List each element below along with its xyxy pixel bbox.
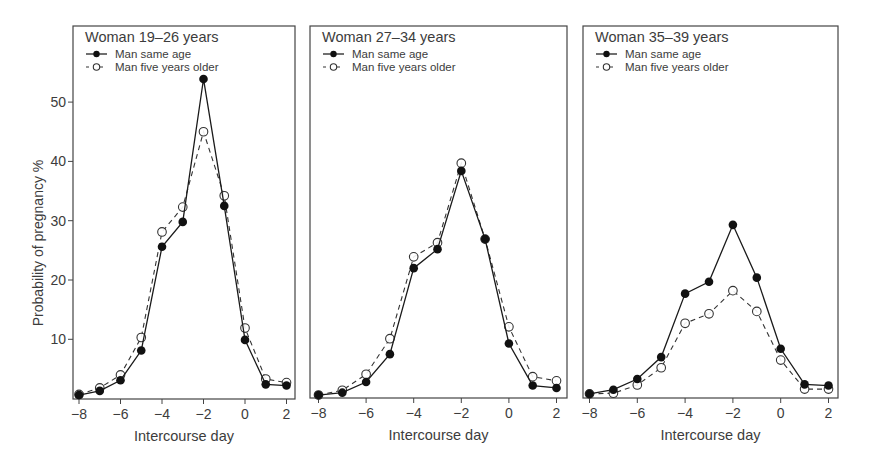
data-point <box>528 381 537 390</box>
x-tick-label: 0 <box>777 405 785 421</box>
x-tick-label: −4 <box>406 405 422 421</box>
data-point <box>729 221 738 230</box>
data-point <box>158 228 167 237</box>
y-axis: 1020304050 <box>50 94 73 347</box>
data-point <box>457 167 466 176</box>
x-tick-label: −6 <box>113 406 129 422</box>
open-circle-marker-icon <box>603 64 609 70</box>
panel-woman-27-34: Woman 27–34 yearsMan same ageMan five ye… <box>310 26 567 443</box>
x-tick-label: −8 <box>311 405 327 421</box>
data-point <box>681 319 690 328</box>
x-tick-label: 0 <box>241 406 249 422</box>
data-point <box>409 253 418 262</box>
panel-title: Woman 35–39 years <box>595 29 729 45</box>
filled-circle-marker-icon <box>603 51 609 57</box>
x-tick-label: −6 <box>358 405 374 421</box>
legend-label-same-age: Man same age <box>115 48 191 60</box>
data-point <box>314 391 323 400</box>
series-line <box>319 171 557 395</box>
data-point <box>362 370 371 379</box>
panel-title: Woman 19–26 years <box>85 29 219 45</box>
series-man-five-years-older <box>75 127 291 398</box>
x-tick-label: 2 <box>283 406 291 422</box>
x-axis-label: Intercourse day <box>389 427 490 443</box>
data-point <box>705 310 714 319</box>
y-tick-label: 50 <box>50 94 66 110</box>
x-tick-label: −2 <box>725 405 741 421</box>
x-axis-label: Intercourse day <box>134 428 235 444</box>
y-axis-label: Probability of pregnancy % <box>30 160 46 327</box>
data-point <box>705 277 714 286</box>
x-axis: −8−6−4−202 <box>71 399 291 422</box>
open-circle-marker-icon <box>93 64 99 70</box>
legend-label-five-years-older: Man five years older <box>625 61 729 73</box>
data-point <box>178 218 187 227</box>
data-point <box>457 159 466 168</box>
legend-label-five-years-older: Man five years older <box>352 61 456 73</box>
x-tick-label: 0 <box>505 405 513 421</box>
data-point <box>386 350 395 359</box>
data-point <box>116 376 125 385</box>
series-man-same-age <box>75 75 291 400</box>
series-man-five-years-older <box>585 286 833 398</box>
x-axis: −8−6−4−202 <box>582 398 833 421</box>
data-point <box>657 353 666 362</box>
data-point <box>633 375 642 384</box>
x-tick-label: −2 <box>453 405 469 421</box>
x-tick-label: 2 <box>825 405 833 421</box>
series-line <box>319 163 557 395</box>
legend-label-same-age: Man same age <box>625 48 701 60</box>
x-tick-label: −8 <box>71 406 87 422</box>
chart-canvas: Probability of pregnancy % Woman 19–26 y… <box>0 0 870 459</box>
data-point <box>338 388 347 397</box>
series-line <box>79 132 287 395</box>
data-point <box>158 242 167 251</box>
data-point <box>95 387 104 396</box>
data-point <box>505 339 514 348</box>
data-point <box>552 384 561 393</box>
data-point <box>609 385 618 394</box>
data-point <box>75 391 84 400</box>
data-point <box>282 381 291 390</box>
data-point <box>753 273 762 282</box>
x-tick-label: −2 <box>196 406 212 422</box>
data-point <box>362 378 371 387</box>
data-point <box>433 245 442 254</box>
x-tick-label: −4 <box>677 405 693 421</box>
x-axis: −8−6−4−202 <box>311 398 561 421</box>
y-tick-label: 30 <box>50 213 66 229</box>
legend: Man same ageMan five years older <box>596 48 729 73</box>
data-point <box>800 380 809 389</box>
y-tick-label: 10 <box>50 331 66 347</box>
x-axis-label: Intercourse day <box>661 427 762 443</box>
data-point <box>199 127 208 136</box>
data-point <box>585 390 594 399</box>
x-tick-label: −8 <box>582 405 598 421</box>
filled-circle-marker-icon <box>330 51 336 57</box>
data-point <box>824 381 833 390</box>
series-line <box>79 79 287 395</box>
data-point <box>481 235 490 244</box>
data-point <box>657 363 666 372</box>
data-point <box>241 324 250 333</box>
plot-frame <box>583 26 838 398</box>
legend: Man same ageMan five years older <box>323 48 456 73</box>
data-point <box>729 286 738 295</box>
x-tick-label: −6 <box>629 405 645 421</box>
plot-frame <box>310 26 567 398</box>
y-tick-label: 20 <box>50 272 66 288</box>
data-point <box>409 264 418 273</box>
series-line <box>590 291 829 394</box>
legend: Man same ageMan five years older <box>86 48 219 73</box>
data-point <box>261 380 270 389</box>
y-tick-label: 40 <box>50 153 66 169</box>
data-point <box>199 75 208 84</box>
figure: Probability of pregnancy % Woman 19–26 y… <box>0 0 870 459</box>
data-point <box>681 289 690 298</box>
data-point <box>220 202 229 211</box>
panel-woman-35-39: Woman 35–39 yearsMan same ageMan five ye… <box>582 26 838 443</box>
series-man-same-age <box>314 167 561 400</box>
panel-woman-19-26: Woman 19–26 yearsMan same ageMan five ye… <box>50 26 295 444</box>
data-point <box>776 344 785 353</box>
data-point <box>241 336 250 345</box>
